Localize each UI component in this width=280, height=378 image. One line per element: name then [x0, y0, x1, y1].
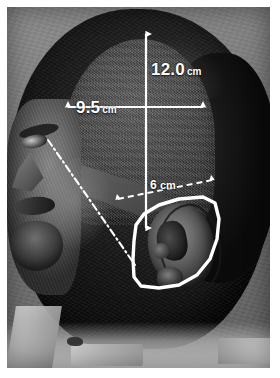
photograph-plate: 12.0cm 9.5cm 6cm	[7, 7, 270, 368]
clinical-photograph-figure: 12.0cm 9.5cm 6cm	[0, 0, 280, 378]
horizontal-value: 9.5	[76, 98, 100, 117]
dash-dot-planning-line	[48, 140, 135, 265]
oblique-value: 6	[150, 178, 157, 192]
horizontal-unit: cm	[102, 104, 116, 115]
label-vertical-measurement: 12.0cm	[151, 61, 201, 78]
vertical-value: 12.0	[151, 60, 185, 79]
vertical-unit: cm	[187, 66, 201, 77]
label-horizontal-measurement: 9.5cm	[76, 99, 117, 116]
oblique-unit: cm	[160, 179, 176, 191]
label-oblique-measurement: 6cm	[150, 176, 176, 192]
annotation-overlay	[7, 7, 270, 368]
